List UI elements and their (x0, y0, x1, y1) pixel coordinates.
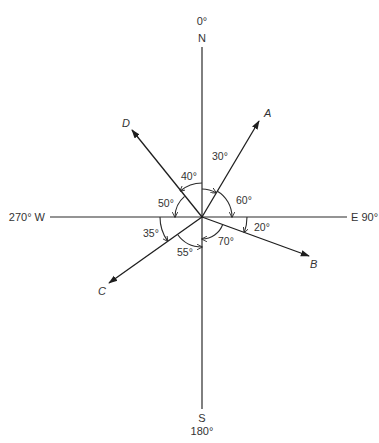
angle-arc-50 (175, 196, 185, 217)
angle-arc-40 (180, 183, 202, 191)
angle-label-55: 55° (177, 246, 193, 258)
angle-arc-35 (160, 217, 168, 241)
east-label: E 90° (351, 211, 378, 223)
angle-label-20: 20° (254, 221, 270, 233)
angle-label-40: 40° (181, 170, 197, 182)
vector-a-label: A (263, 107, 271, 119)
angle-label-70: 70° (218, 235, 234, 247)
angle-arc-30 (202, 189, 216, 193)
vector-c-label: C (98, 285, 106, 297)
north-degree-label: 0° (197, 15, 208, 27)
vector-b-label: B (310, 258, 317, 270)
angle-label-35: 35° (143, 227, 159, 239)
vector-d-label: D (122, 117, 130, 129)
angle-label-50: 50° (158, 197, 174, 209)
south-degree-label: 180° (191, 425, 214, 437)
angle-arc-60 (217, 191, 232, 217)
angle-label-30: 30° (212, 150, 228, 162)
west-label: 270° W (9, 211, 46, 223)
compass-bearing-diagram: 0° N 270° W E 90° S 180° A B C D 30° 60°… (0, 0, 379, 443)
angle-arc-20 (244, 217, 247, 232)
north-letter-label: N (198, 32, 206, 44)
south-letter-label: S (198, 412, 205, 424)
angle-label-60: 60° (236, 194, 252, 206)
